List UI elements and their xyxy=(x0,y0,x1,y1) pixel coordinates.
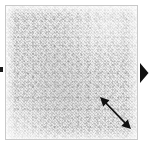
play-triangle-right-icon[interactable] xyxy=(139,62,149,84)
scale-arrow-label xyxy=(0,0,1,1)
micrograph-image-panel[interactable] xyxy=(5,5,138,140)
micrograph-texture-vignette xyxy=(6,6,137,139)
edge-marker-icon xyxy=(0,67,3,72)
micrograph-viewer xyxy=(0,0,150,146)
next-button-label xyxy=(0,0,1,1)
edge-marker-label xyxy=(0,0,1,1)
